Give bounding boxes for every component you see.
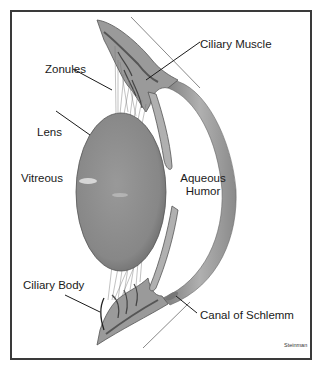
ciliary-muscle-leader <box>146 42 200 80</box>
label-aqueous-humor-line2: Humor <box>178 185 228 198</box>
label-vitreous: Vitreous <box>21 172 63 185</box>
lens <box>76 113 166 271</box>
label-ciliary-muscle: Ciliary Muscle <box>200 38 272 51</box>
ciliary-body-leader <box>65 295 100 312</box>
artist-credit: Steinman <box>284 342 307 348</box>
label-aqueous-humor-line1: Aqueous <box>178 172 228 185</box>
label-aqueous-humor: Aqueous Humor <box>178 172 228 198</box>
label-ciliary-body: Ciliary Body <box>23 279 84 292</box>
label-canal-of-schlemm: Canal of Schlemm <box>200 309 294 322</box>
label-zonules: Zonules <box>45 63 86 76</box>
label-lens: Lens <box>37 126 62 139</box>
canal-of-schlemm-leader <box>176 296 197 313</box>
